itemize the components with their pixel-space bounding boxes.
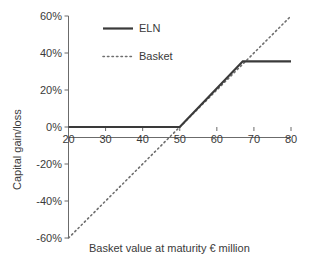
y-axis-tick-label: -40% — [20, 196, 62, 207]
legend-label-eln: ELN — [139, 23, 160, 34]
x-axis-tick-label: 50 — [160, 134, 200, 145]
y-axis-tick-label: 40% — [20, 48, 62, 59]
x-axis-tick-label: 80 — [271, 134, 311, 145]
x-axis-title: Basket value at maturity € million — [89, 243, 250, 254]
y-axis-tick-label: 0% — [20, 122, 62, 133]
y-axis-tick-label: -20% — [20, 159, 62, 170]
y-axis-tick-label: 20% — [20, 85, 62, 96]
chart-container: 60%40%20%0%-20%-40%-60% 20304050607080 E… — [0, 0, 315, 268]
x-axis-tick-label: 30 — [86, 134, 126, 145]
series-line-eln — [69, 61, 292, 127]
y-axis-tick-label: 60% — [20, 11, 62, 22]
y-axis-title: Capital gain/loss — [12, 109, 23, 190]
x-axis-tick-label: 60 — [197, 134, 237, 145]
y-axis-ticks — [65, 16, 69, 238]
legend-label-basket: Basket — [139, 51, 173, 62]
y-axis-tick-label: -60% — [20, 233, 62, 244]
x-axis-tick-label: 70 — [234, 134, 274, 145]
x-axis-tick-label: 40 — [123, 134, 163, 145]
x-axis-tick-label: 20 — [49, 134, 89, 145]
